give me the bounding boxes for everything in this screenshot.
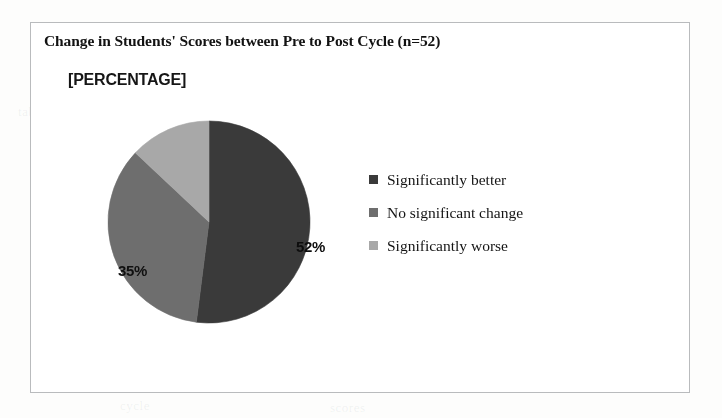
scanned-page: proof region student cycle scores table … <box>0 0 722 418</box>
legend-swatch-icon <box>369 208 378 217</box>
legend-item-label: Significantly worse <box>387 237 508 255</box>
pie-slice-label-better: 52% <box>296 238 325 255</box>
scan-bleed-artifact: scores <box>330 400 366 416</box>
percentage-placeholder-label: [PERCENTAGE] <box>68 71 186 89</box>
chart-title: Change in Students' Scores between Pre t… <box>44 32 440 50</box>
chart-legend: Significantly better No significant chan… <box>369 163 523 262</box>
legend-item-label: No significant change <box>387 204 523 222</box>
scan-bleed-artifact: cycle <box>120 398 150 414</box>
legend-item-significantly-better[interactable]: Significantly better <box>369 163 523 196</box>
pie-slice-label-nochange: 35% <box>118 262 147 279</box>
legend-swatch-icon <box>369 241 378 250</box>
pie-chart <box>107 120 311 324</box>
pie-slice[interactable] <box>196 121 310 323</box>
legend-item-no-significant-change[interactable]: No significant change <box>369 196 523 229</box>
pie-chart-svg <box>107 120 311 324</box>
legend-swatch-icon <box>369 175 378 184</box>
legend-item-label: Significantly better <box>387 171 506 189</box>
legend-item-significantly-worse[interactable]: Significantly worse <box>369 229 523 262</box>
